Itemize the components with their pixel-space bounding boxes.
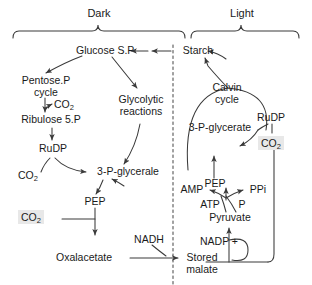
node-starch: Starch [178,45,218,57]
node-co2-ribulose: CO2 [54,99,80,112]
co2-text: CO [261,137,277,149]
co2-highlight-box: CO2 [258,136,284,150]
node-rudp-left: RuDP [32,143,74,155]
node-calvin-cycle: Calvin cycle [204,82,250,105]
co2-subscript: 2 [37,216,41,225]
co2-subscript: 2 [34,174,38,183]
co2-subscript: 2 [70,103,74,112]
node-co2-calvin-highlighted: CO2 [258,138,284,151]
node-co2-rudp: CO2 [18,170,46,183]
node-pentose-p-cycle: Pentose.P cycle [12,75,80,98]
node-glycolytic-reactions: Glycolytic reactions [110,94,172,117]
co2-text: CO [54,98,70,110]
node-co2-pep-highlighted: CO2 [18,212,44,225]
dark-phase-brace [13,25,185,38]
metabolic-pathway-diagram: Dark Light Glucose S.P Starch Pentose.P … [0,0,312,285]
node-ribulose-5p: Ribulose 5.P [8,114,94,126]
node-pep-left: PEP [78,196,112,208]
node-nadh: NADH [128,234,170,246]
co2-text: CO [18,169,34,181]
node-nadp-plus: NADP + [196,236,242,248]
co2-text: CO [21,211,37,223]
co2-subscript: 2 [277,142,281,151]
node-glycerate-right: 3-P-glycerate [180,122,260,134]
node-ppi: PPi [245,184,271,196]
node-glucose-sp: Glucose S.P [76,45,134,57]
node-oxalacetate: Oxalacetate [44,252,124,264]
node-atp: ATP [196,199,224,211]
light-phase-label: Light [221,8,263,20]
node-p: P [236,199,248,211]
node-stored-malate: Stored malate [180,252,224,275]
co2-highlight-box: CO2 [18,210,44,224]
dark-phase-label: Dark [78,8,120,20]
node-pyruvate: Pyruvate [202,212,258,224]
node-glycerate-left: 3-P-glycerale [88,166,168,178]
light-phase-brace [191,25,299,38]
node-amp: AMP [176,184,208,196]
